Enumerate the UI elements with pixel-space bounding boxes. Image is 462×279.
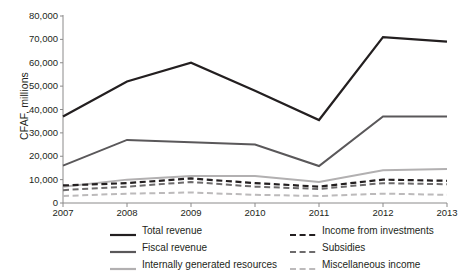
legend-item: Fiscal revenue xyxy=(110,240,207,256)
legend-line-swatch-icon xyxy=(110,260,136,270)
x-axis-tick-label: 2011 xyxy=(296,207,342,218)
legend-item-label: Income from investments xyxy=(322,225,434,237)
legend-item: Income from investments xyxy=(290,223,434,239)
legend-item: Subsidies xyxy=(290,240,365,256)
x-axis-tick-label: 2008 xyxy=(104,207,150,218)
chart-legend: Total revenueIncome from investmentsFisc… xyxy=(0,223,462,279)
legend-line-swatch-icon xyxy=(290,260,316,270)
legend-item: Miscellaneous income xyxy=(290,257,420,273)
x-axis-tick-label: 2010 xyxy=(232,207,278,218)
x-axis-tick-label: 2012 xyxy=(360,207,406,218)
legend-line-swatch-icon xyxy=(110,226,136,236)
legend-line-swatch-icon xyxy=(290,226,316,236)
legend-line-swatch-icon xyxy=(290,243,316,253)
x-axis-tick-label: 2013 xyxy=(424,207,462,218)
line-chart-figure: CFAF, millions 010,00020,00030,00040,000… xyxy=(0,0,462,279)
legend-item-label: Fiscal revenue xyxy=(142,242,207,254)
legend-item-label: Subsidies xyxy=(322,242,365,254)
legend-item-label: Miscellaneous income xyxy=(322,259,420,271)
legend-item-label: Internally generated resources xyxy=(142,259,277,271)
series-line-5 xyxy=(63,192,447,196)
x-axis-tick-label: 2007 xyxy=(40,207,86,218)
legend-item: Internally generated resources xyxy=(110,257,277,273)
chart-canvas xyxy=(0,0,462,215)
x-axis-tick-labels: 2007200820092010201120122013 xyxy=(0,203,462,223)
legend-item: Total revenue xyxy=(110,223,202,239)
series-line-0 xyxy=(63,37,447,120)
series-line-1 xyxy=(63,117,447,167)
x-axis-tick-label: 2009 xyxy=(168,207,214,218)
legend-item-label: Total revenue xyxy=(142,225,202,237)
plot-area: 010,00020,00030,00040,00050,00060,00070,… xyxy=(0,0,462,215)
legend-line-swatch-icon xyxy=(110,243,136,253)
